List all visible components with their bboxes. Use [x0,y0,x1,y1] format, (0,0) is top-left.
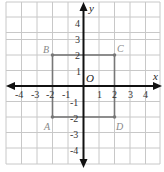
y-tick: 1 [76,66,81,77]
x-tick: -3 [31,89,39,100]
x-axis-left-arrow-icon [6,82,15,90]
y-tick: -4 [70,145,78,156]
y-tick: 4 [75,18,80,29]
point-label-b: B [43,44,49,55]
x-tick: -4 [15,89,23,100]
y-axis-up-arrow-icon [80,2,88,11]
point-label-d: D [115,121,124,132]
y-tick: -1 [70,97,78,108]
x-tick: 2 [112,89,117,100]
point-label-c: C [117,43,124,54]
y-tick: 3 [75,34,80,45]
axes [10,6,158,162]
y-tick: -2 [70,113,78,124]
x-axis-label: x [152,70,158,82]
coordinate-plane: y x O -4 -3 -2 -1 1 2 3 4 4 3 2 1 -1 -2 … [0,0,164,172]
x-tick: 1 [97,89,102,100]
origin-label: O [86,72,94,84]
y-axis-label: y [88,2,94,14]
y-tick: 2 [75,50,80,61]
y-tick: -3 [70,129,78,140]
x-tick: 3 [128,89,133,100]
point-label-a: A [43,121,51,132]
x-tick: 4 [143,89,148,100]
x-axis-right-arrow-icon [153,82,162,90]
x-tick: -2 [46,89,54,100]
